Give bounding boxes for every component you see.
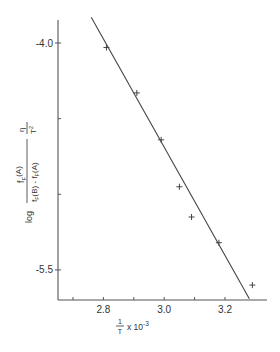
x-axis-label: 1 T x 10-3 (116, 318, 149, 335)
y-label-denominator: fF(B) - fF(A) (30, 162, 40, 202)
y-label-eta: η (17, 128, 26, 132)
axes (58, 20, 267, 300)
chart: 2.83.03.2 -4.0-5.5 log fF(A) fF(B) - fF(… (0, 0, 280, 352)
data-points (103, 45, 255, 289)
x-label-denominator: T (118, 328, 123, 335)
data-point (176, 184, 182, 190)
x-label-suffix: x 10-3 (127, 320, 149, 332)
y-label-T2: T2 (28, 126, 38, 134)
fit-line-group (91, 17, 249, 298)
y-ticks: -4.0-5.5 (36, 38, 61, 276)
data-point (189, 214, 195, 220)
x-tick-label: 3.2 (218, 304, 232, 315)
x-label-numerator: 1 (118, 318, 122, 325)
y-label-numerator: fF(A) (14, 166, 27, 183)
x-tick-label: 2.8 (96, 304, 110, 315)
y-axis-label: log fF(A) fF(B) - fF(A) η T2 (14, 122, 40, 223)
data-point (249, 282, 255, 288)
y-tick-label: -4.0 (36, 38, 54, 49)
data-point (103, 45, 109, 51)
y-label-log: log (24, 211, 34, 223)
x-tick-label: 3.0 (157, 304, 171, 315)
fit-line (91, 17, 249, 298)
y-tick-label: -5.5 (36, 264, 54, 275)
